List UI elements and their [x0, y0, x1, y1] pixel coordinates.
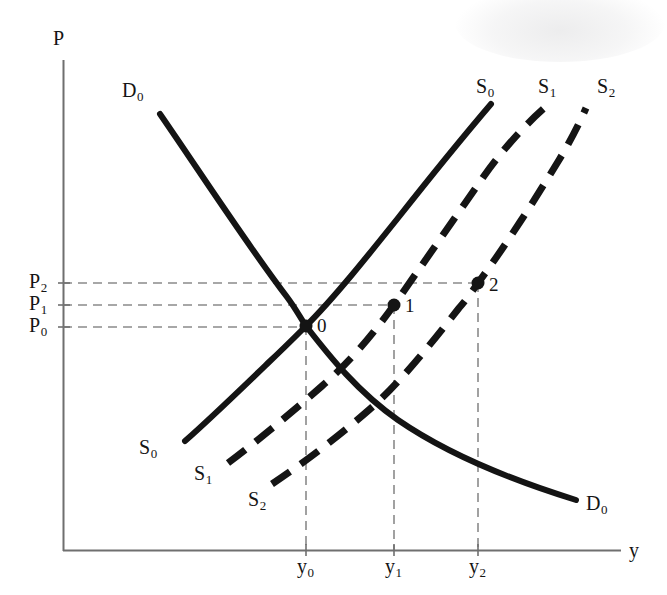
- curve-label-supply1-bottom: S1: [194, 463, 212, 483]
- curve-label-supply2-bottom: S2: [248, 489, 266, 509]
- supply-curve-s0: [185, 104, 491, 441]
- supply-curve-s2: [272, 108, 586, 484]
- curve-label-supply0-top: S0: [476, 76, 494, 96]
- plot-canvas: [0, 0, 667, 595]
- equilibrium-label-1: 1: [405, 296, 415, 315]
- price-tick-label-p1: P1: [29, 293, 47, 313]
- curve-label-supply2-top: S2: [597, 76, 615, 96]
- demand-curve-d0: [160, 114, 576, 500]
- curve-label-supply0-bottom: S0: [139, 437, 157, 457]
- tick-marks: [58, 283, 478, 556]
- equilibrium-dot-1: [388, 299, 401, 312]
- equilibrium-label-2: 2: [489, 275, 499, 294]
- quantity-tick-label-y2: y2: [469, 556, 486, 576]
- curve-label-supply1-top: S1: [538, 76, 556, 96]
- curve-label-demand-bottom: D0: [586, 493, 607, 513]
- price-guide-lines: [63, 283, 478, 327]
- price-tick-label-p2: P2: [29, 271, 47, 291]
- equilibrium-dot-0: [300, 320, 313, 333]
- equilibrium-dot-2: [472, 277, 485, 290]
- supply-demand-figure: P y P2 P1 P0 y0 y1 y2 D0 D0 S0 S1 S2 S0 …: [0, 0, 667, 595]
- price-tick-label-p0: P0: [29, 315, 47, 335]
- quantity-tick-label-y0: y0: [297, 556, 314, 576]
- equilibrium-label-0: 0: [317, 316, 327, 335]
- quantity-tick-label-y1: y1: [385, 556, 402, 576]
- y-axis-title: P: [53, 28, 64, 48]
- curve-label-demand-top: D0: [122, 80, 143, 100]
- x-axis-title: y: [629, 540, 639, 560]
